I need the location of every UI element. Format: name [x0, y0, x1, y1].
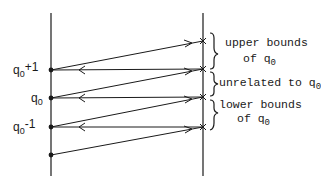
label-q0-plus-1: q0+1 [13, 60, 39, 79]
unrelated-label: unrelated to q0 [219, 76, 321, 92]
lower-bounds-label: lower bounds [219, 98, 302, 111]
bounds-diagram: q0+1 q0 q0-1 upper bounds of q0 unrelate… [0, 0, 321, 188]
label-q0-minus-1: q0-1 [13, 117, 36, 136]
return-arrows [51, 66, 203, 131]
upper-bounds-of-q0: of q0 [243, 52, 276, 68]
lower-bounds-of-q0: of q0 [237, 112, 270, 128]
upper-bounds-label: upper bounds [225, 36, 308, 49]
label-q0: q0 [31, 91, 43, 107]
braces [210, 33, 218, 130]
